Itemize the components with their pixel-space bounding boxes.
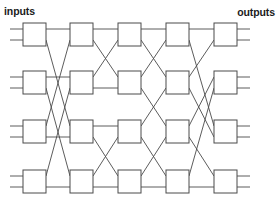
switch-element-5-2 (214, 71, 237, 94)
switch-element-5-1 (214, 23, 237, 46)
link-s4-r3-bottom-to-r4-top (189, 137, 214, 176)
network-svg: inputs outputs (0, 0, 279, 205)
switch-element-1-4 (23, 170, 46, 193)
switch-element-5-3 (214, 120, 237, 143)
switch-element-1-2 (23, 71, 46, 94)
link-layer (46, 29, 214, 187)
switch-layer (23, 23, 237, 193)
switch-element-3-4 (118, 170, 141, 193)
switch-element-2-2 (70, 71, 93, 94)
switch-element-2-3 (70, 120, 93, 143)
inputs-label: inputs (4, 5, 35, 17)
switch-element-4-2 (166, 71, 189, 94)
switch-element-5-4 (214, 170, 237, 193)
switch-element-3-3 (118, 120, 141, 143)
switch-element-1-3 (23, 120, 46, 143)
switch-element-4-3 (166, 120, 189, 143)
switch-element-2-1 (70, 23, 93, 46)
switch-element-4-1 (166, 23, 189, 46)
port-stub-layer (10, 29, 250, 187)
switch-element-2-4 (70, 170, 93, 193)
switch-element-3-1 (118, 23, 141, 46)
switch-element-4-4 (166, 170, 189, 193)
link-s4-r2-top-to-r1-bottom (189, 40, 214, 77)
switch-element-3-2 (118, 71, 141, 94)
switch-element-1-1 (23, 23, 46, 46)
network-diagram: inputs outputs (0, 0, 279, 205)
outputs-label: outputs (237, 6, 275, 18)
